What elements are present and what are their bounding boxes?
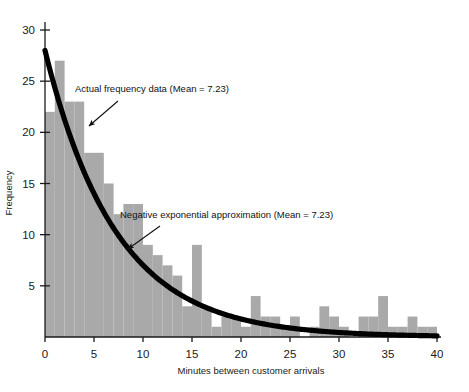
y-tick-label: 10 [22,229,35,241]
histogram-bar [123,204,133,337]
y-tick-label: 25 [22,75,35,87]
histogram-bar [172,276,182,337]
y-tick-label: 5 [29,280,35,292]
x-tick-label: 0 [42,348,48,360]
x-tick-label: 40 [431,348,444,360]
histogram-bar [163,265,173,337]
actual-data-annotation: Actual frequency data (Mean = 7.23) [75,83,229,126]
x-tick-label: 35 [382,348,395,360]
annotation-arrow [89,101,118,126]
histogram-bar [133,204,143,337]
histogram-bar [182,306,192,337]
histogram-bar [212,327,222,337]
x-tick-label: 20 [235,348,248,360]
annotation-text: Negative exponential approximation (Mean… [120,209,333,220]
histogram-bar [251,296,261,337]
x-tick-label: 5 [91,348,97,360]
x-tick-label: 10 [137,348,150,360]
y-axis-title: Frequency [3,170,14,215]
chart-figure: 510152025300510152025303540 Actual frequ… [0,0,469,392]
histogram-bar [94,153,104,337]
x-axis-title: Minutes between customer arrivals [178,365,325,376]
y-tick-label: 20 [22,126,35,138]
y-tick-label: 15 [22,178,35,190]
x-tick-label: 25 [284,348,297,360]
histogram-bar [192,245,202,337]
exponential-annotation: Negative exponential approximation (Mean… [120,209,333,249]
histogram-bar [104,184,114,338]
histogram-bar [221,317,231,337]
x-tick-label: 30 [333,348,346,360]
histogram-bar [45,112,55,337]
histogram-bar [153,255,163,337]
histogram-bar [241,327,251,337]
histogram-chart: 510152025300510152025303540 Actual frequ… [0,0,469,392]
annotation-text: Actual frequency data (Mean = 7.23) [75,83,229,94]
y-tick-label: 30 [22,24,35,36]
histogram-bar [74,102,84,337]
x-tick-label: 15 [186,348,199,360]
histogram-bar [378,296,388,337]
histogram-bars [45,61,437,337]
histogram-bar [143,245,153,337]
